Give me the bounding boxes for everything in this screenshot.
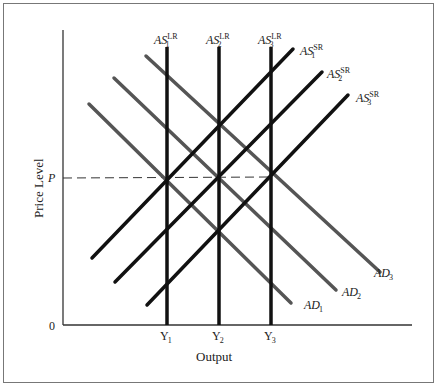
x-axis-title: Output: [196, 349, 232, 365]
origin-label: 0: [49, 320, 55, 332]
y2-label: Y2: [212, 330, 224, 342]
as2-lr-label: ASLR2: [206, 34, 222, 46]
ad2-curve: [114, 78, 336, 290]
y3-label: Y3: [264, 330, 276, 342]
price-label: P: [48, 171, 55, 185]
y-axis-title: Price Level: [31, 158, 47, 218]
ad3-label: AD3: [374, 267, 393, 279]
ad1-label: AD1: [304, 299, 323, 311]
ad2-label: AD2: [342, 286, 361, 298]
as3-sr-label: ASSR3: [356, 92, 371, 104]
as1-sr-label: ASSR1: [300, 45, 315, 57]
as1-sr-curve: [92, 49, 293, 258]
y1-label: Y1: [160, 330, 172, 342]
as1-lr-label: ASLR1: [154, 34, 170, 46]
as3-lr-label: ASLR3: [258, 34, 274, 46]
as2-sr-label: ASSR2: [327, 68, 342, 80]
